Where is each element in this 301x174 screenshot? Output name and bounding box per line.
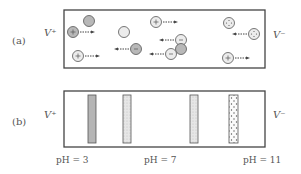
particle-circle [84, 16, 95, 27]
band-ph-5 [123, 95, 131, 143]
panel-a-anode-label: V⁺ [44, 27, 57, 38]
dot-icon [253, 36, 254, 37]
panel-b: (b) V⁺ V⁻ pH = 3 pH = 7 pH = 11 [12, 91, 286, 165]
band-ph-11 [229, 95, 238, 143]
ph-label-3: pH = 3 [56, 155, 89, 165]
arrowhead-icon [174, 21, 178, 24]
dot-icon [231, 22, 232, 23]
particle [114, 44, 142, 55]
particle [149, 49, 177, 60]
particle [223, 53, 251, 64]
dot-icon [228, 25, 229, 26]
particle-circle [249, 29, 260, 40]
dot-icon [228, 20, 229, 21]
particle-circle [224, 18, 235, 29]
arrowhead-icon [91, 31, 95, 34]
panel-a-label: (a) [12, 35, 26, 46]
arrowhead-icon [149, 53, 153, 56]
particle [119, 27, 130, 38]
particle [84, 16, 95, 27]
panel-b-cathode-label: V⁻ [273, 109, 286, 120]
panel-b-anode-label: V⁺ [44, 109, 57, 120]
dot-icon [251, 33, 252, 34]
ph-label-11: pH = 11 [243, 155, 281, 165]
particle [224, 18, 235, 29]
arrowhead-icon [159, 39, 163, 42]
particle-circle [119, 27, 130, 38]
band-ph-9 [190, 95, 198, 143]
panel-a-cathode-label: V⁻ [273, 29, 286, 40]
particle [232, 29, 260, 40]
electrophoresis-diagram: (a) V⁺ V⁻ (b) V⁺ V⁻ pH = 3 pH = 7 pH = 1… [0, 0, 301, 174]
particles [68, 16, 260, 64]
panel-a: (a) V⁺ V⁻ [12, 10, 286, 68]
dot-icon [253, 31, 254, 32]
particle [151, 17, 179, 28]
band-ph-3 [88, 95, 96, 143]
arrowhead-icon [232, 33, 236, 36]
particle [68, 27, 96, 38]
arrowhead-icon [246, 57, 250, 60]
arrowhead-icon [114, 48, 118, 51]
particle [73, 51, 101, 62]
particle [176, 44, 187, 55]
ph-label-7: pH = 7 [144, 155, 177, 165]
panel-b-label: (b) [12, 116, 26, 127]
arrowhead-icon [96, 55, 100, 58]
particle-circle [176, 44, 187, 55]
dot-icon [256, 33, 257, 34]
dot-icon [226, 22, 227, 23]
